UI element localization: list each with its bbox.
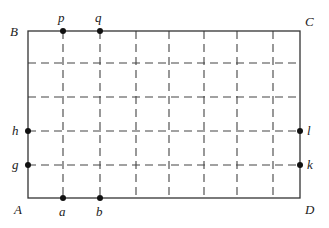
label-point-p: p	[57, 10, 65, 25]
point-l	[297, 128, 303, 134]
label-point-h: h	[12, 123, 19, 138]
point-h	[25, 128, 31, 134]
point-g	[25, 162, 31, 168]
label-point-a: a	[59, 204, 66, 219]
vertical-grid-lines	[63, 31, 273, 198]
point-a	[60, 195, 66, 201]
label-corner-d: D	[304, 202, 315, 217]
marked-points	[25, 28, 303, 201]
label-point-l: l	[307, 123, 311, 138]
point-q	[97, 28, 103, 34]
label-corner-a: A	[13, 202, 22, 217]
label-point-q: q	[95, 10, 102, 25]
label-point-k: k	[307, 157, 313, 172]
point-p	[60, 28, 66, 34]
point-b	[97, 195, 103, 201]
horizontal-grid-lines	[28, 63, 300, 165]
label-corner-c: C	[305, 14, 314, 29]
grid-diagram: B C A D p q a b h g l k	[0, 0, 329, 228]
point-k	[297, 162, 303, 168]
label-point-g: g	[12, 157, 19, 172]
rectangle-abcd	[28, 31, 300, 198]
label-point-b: b	[96, 204, 103, 219]
label-corner-b: B	[10, 24, 18, 39]
